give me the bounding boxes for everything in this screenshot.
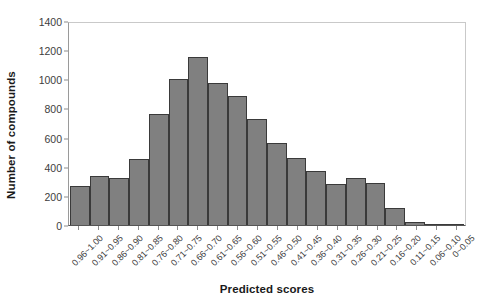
x-axis-tick-mark	[118, 226, 119, 230]
bar-slot	[267, 23, 287, 225]
x-axis-tick-mark	[158, 226, 159, 230]
x-axis-tick-mark	[98, 226, 99, 230]
x-axis-title: Predicted scores	[68, 283, 466, 295]
bar-slot	[70, 23, 90, 225]
histogram-bar	[366, 183, 386, 225]
bar-slot	[90, 23, 110, 225]
x-axis-tick-mark	[257, 226, 258, 230]
bar-series	[69, 23, 465, 225]
histogram-bar	[129, 159, 149, 225]
x-axis-tick-mark	[277, 226, 278, 230]
bar-slot	[188, 23, 208, 225]
x-axis-tick-mark	[436, 226, 437, 230]
x-axis-label-slot: 0.96~1.00	[68, 231, 88, 281]
x-axis-tick-mark	[78, 226, 79, 230]
histogram-bar	[444, 224, 464, 225]
x-axis-label-slot: 0.71~0.75	[168, 231, 188, 281]
bar-slot	[385, 23, 405, 225]
x-axis-label-slot: 0.06~0.10	[426, 231, 446, 281]
histogram-bar	[109, 178, 129, 225]
histogram-bar	[346, 178, 366, 225]
histogram-bar	[149, 114, 169, 225]
bar-slot	[109, 23, 129, 225]
bar-slot	[149, 23, 169, 225]
x-axis-tick-mark	[396, 226, 397, 230]
y-axis-tick-label: 1200	[39, 45, 62, 57]
x-axis-tick-mark	[197, 226, 198, 230]
bar-slot	[346, 23, 366, 225]
bar-slot	[366, 23, 386, 225]
x-axis-tick-labels: 0.96~1.000.91~0.950.86~0.900.81~0.850.76…	[68, 231, 466, 281]
y-axis-tick-label: 0	[56, 220, 62, 232]
bar-slot	[228, 23, 248, 225]
x-axis-label-slot: 0.31~0.35	[327, 231, 347, 281]
x-axis-tick-mark	[337, 226, 338, 230]
y-axis-tick-label: 1000	[39, 74, 62, 86]
histogram-bar	[188, 57, 208, 225]
y-axis-tick-label: 800	[44, 103, 62, 115]
y-axis-tick-label: 1400	[39, 16, 62, 28]
histogram-bar	[287, 158, 307, 225]
x-axis-label-slot: 0.61~0.65	[207, 231, 227, 281]
x-axis-tick-mark	[217, 226, 218, 230]
x-axis-tick-mark	[177, 226, 178, 230]
histogram-bar	[326, 184, 346, 225]
x-axis-label-slot: 0.76~0.80	[148, 231, 168, 281]
x-axis-tick-mark	[416, 226, 417, 230]
bar-slot	[425, 23, 445, 225]
histogram-bar	[405, 222, 425, 225]
x-axis-label-slot: 0.46~0.50	[267, 231, 287, 281]
x-axis-label-slot: 0.16~0.20	[387, 231, 407, 281]
bar-slot	[247, 23, 267, 225]
x-axis-tick-mark	[456, 226, 457, 230]
bar-slot	[326, 23, 346, 225]
x-axis-label-slot: 0.91~0.95	[88, 231, 108, 281]
bar-slot	[444, 23, 464, 225]
bar-slot	[169, 23, 189, 225]
x-axis-label-slot: 0~0.05	[446, 231, 466, 281]
bar-slot	[287, 23, 307, 225]
bar-slot	[208, 23, 228, 225]
x-axis-tick-mark	[377, 226, 378, 230]
histogram-bar	[385, 208, 405, 225]
y-axis-tick-label: 400	[44, 162, 62, 174]
bar-slot	[129, 23, 149, 225]
bar-slot	[405, 23, 425, 225]
bar-slot	[306, 23, 326, 225]
x-axis-label-slot: 0.21~0.25	[367, 231, 387, 281]
histogram-bar	[267, 143, 287, 225]
x-axis-tick-mark	[357, 226, 358, 230]
x-axis-label-slot: 0.81~0.85	[128, 231, 148, 281]
plot-area	[68, 22, 466, 226]
y-axis-tick-label: 600	[44, 133, 62, 145]
x-axis-tick-mark	[138, 226, 139, 230]
histogram-bar	[70, 186, 90, 225]
histogram-bar	[425, 224, 445, 225]
histogram-figure: Number of compounds 02004006008001000120…	[0, 0, 481, 304]
x-axis-tick-mark	[237, 226, 238, 230]
x-axis-label-slot: 0.26~0.30	[347, 231, 367, 281]
x-axis-label-slot: 0.51~0.55	[247, 231, 267, 281]
x-axis-label-slot: 0.86~0.90	[108, 231, 128, 281]
histogram-bar	[228, 96, 248, 225]
x-axis-tick-label: 0~0.05	[451, 233, 477, 259]
x-axis-tick-mark	[317, 226, 318, 230]
histogram-bar	[247, 119, 267, 225]
x-axis-label-slot: 0.66~0.70	[187, 231, 207, 281]
histogram-bar	[90, 176, 110, 225]
x-axis-label-slot: 0.36~0.40	[307, 231, 327, 281]
histogram-bar	[169, 79, 189, 225]
x-axis-label-slot: 0.11~0.15	[406, 231, 426, 281]
histogram-bar	[208, 83, 228, 225]
x-axis-label-slot: 0.56~0.60	[227, 231, 247, 281]
histogram-bar	[306, 171, 326, 225]
x-axis-tick-mark	[297, 226, 298, 230]
x-axis-label-slot: 0.41~0.45	[287, 231, 307, 281]
y-axis-tick-label: 200	[44, 191, 62, 203]
y-axis-ticks: 0200400600800100012001400	[0, 22, 68, 226]
